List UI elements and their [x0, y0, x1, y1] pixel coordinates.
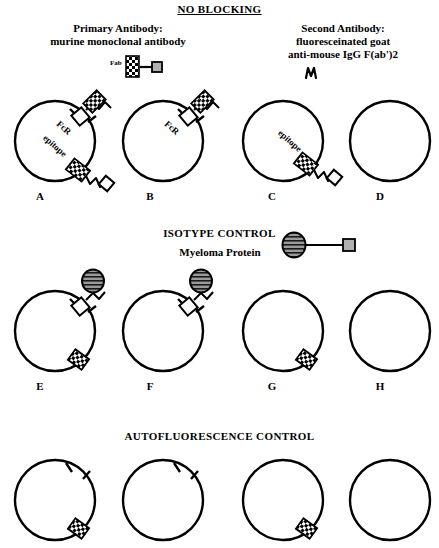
heading-second-antibody-line2: fluoresceinated goat	[252, 35, 434, 48]
panel-e-cell	[15, 270, 105, 372]
panel-row3-cell-1	[15, 460, 95, 540]
section-title-no-blocking: NO BLOCKING	[0, 3, 439, 15]
panel-a-fcr-complex	[70, 90, 111, 125]
panel-f-cell	[123, 270, 213, 372]
panel-letter-a: A	[30, 190, 50, 202]
heading-primary-antibody-line1: Primary Antibody:	[18, 22, 218, 35]
panel-letter-g: G	[262, 380, 282, 392]
panel-letter-h: H	[370, 380, 390, 392]
panel-row3-cell-2-fcr-prongs	[174, 463, 198, 479]
panel-g-cell	[243, 291, 323, 371]
heading-second-antibody: Second Antibody: fluoresceinated goat an…	[252, 22, 434, 61]
panel-row3-cell-4	[350, 460, 430, 540]
heading-second-antibody-line3: anti-mouse IgG F(ab')2	[252, 48, 434, 61]
panel-row3-cell-2	[123, 460, 203, 540]
panel-letter-d: D	[370, 190, 390, 202]
panel-e-epitope-patch	[68, 349, 89, 370]
panel-letter-e: E	[30, 380, 50, 392]
panel-row3-cell-3	[243, 460, 323, 540]
panel-e-myeloma-protein	[82, 270, 104, 293]
heading-primary-antibody: Primary Antibody: murine monoclonal anti…	[18, 22, 218, 48]
panel-b-cell: FcR	[123, 90, 219, 181]
immunofluorescence-controls-diagram: NO BLOCKING ISOTYPE CONTROL AUTOFLUORESC…	[0, 0, 439, 548]
heading-second-antibody-line1: Second Antibody:	[252, 22, 434, 35]
panel-d-cell	[350, 101, 430, 181]
panel-c-epitope-complex	[294, 152, 342, 185]
panel-e-fcr-myeloma-complex	[70, 270, 105, 316]
fab-legend-icon	[126, 56, 162, 77]
section-title-autofluorescence-control: AUTOFLUORESCENCE CONTROL	[0, 430, 439, 442]
panel-row3-cell-1-fcr-prongs	[66, 463, 90, 479]
fab-legend-label: Fab	[110, 59, 122, 67]
panel-b-fcr-label: FcR	[163, 119, 182, 137]
panel-f-fcr-myeloma-complex	[178, 270, 213, 316]
panel-a-cell: FcR epitope	[15, 90, 114, 191]
panel-g-epitope-patch	[296, 349, 317, 370]
panel-row3-cell-1-epitope-patch	[68, 518, 89, 539]
panel-a-fcr-label: FcR	[55, 119, 74, 137]
diagram-artwork: FcR epitope FcR epitope	[0, 0, 439, 548]
panel-b-fcr-complex	[178, 90, 219, 125]
heading-primary-antibody-line2: murine monoclonal antibody	[18, 35, 218, 48]
panel-c-epitope-label: epitope	[276, 128, 304, 154]
panel-row3-cell-3-epitope-patch	[296, 518, 317, 539]
panel-letter-b: B	[140, 190, 160, 202]
panel-letter-f: F	[140, 380, 160, 392]
second-antibody-legend-icon	[306, 68, 316, 78]
panel-h-cell	[350, 291, 430, 371]
panel-a-epitope-complex	[66, 158, 114, 191]
heading-myeloma-protein: Myeloma Protein	[155, 246, 285, 258]
panel-f-myeloma-protein	[190, 270, 212, 293]
panel-a-epitope-label: epitope	[41, 133, 69, 159]
panel-c-cell: epitope	[243, 101, 342, 185]
section-title-isotype-control: ISOTYPE CONTROL	[0, 227, 439, 239]
panel-letter-c: C	[262, 190, 282, 202]
